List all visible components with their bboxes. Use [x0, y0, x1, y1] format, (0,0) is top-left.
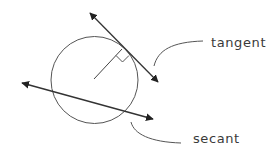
right-angle-marker [116, 56, 129, 63]
diagram-canvas: tangent secant [0, 0, 278, 153]
secant-leader-curve [131, 122, 181, 143]
tangent-leader-curve [154, 41, 203, 66]
secant-label: secant [193, 131, 240, 146]
circle [51, 37, 138, 124]
secant-line [22, 83, 153, 119]
tangent-label: tangent [211, 35, 266, 50]
tangent-secant-diagram: tangent secant [0, 0, 278, 153]
radius-line [94, 49, 122, 79]
